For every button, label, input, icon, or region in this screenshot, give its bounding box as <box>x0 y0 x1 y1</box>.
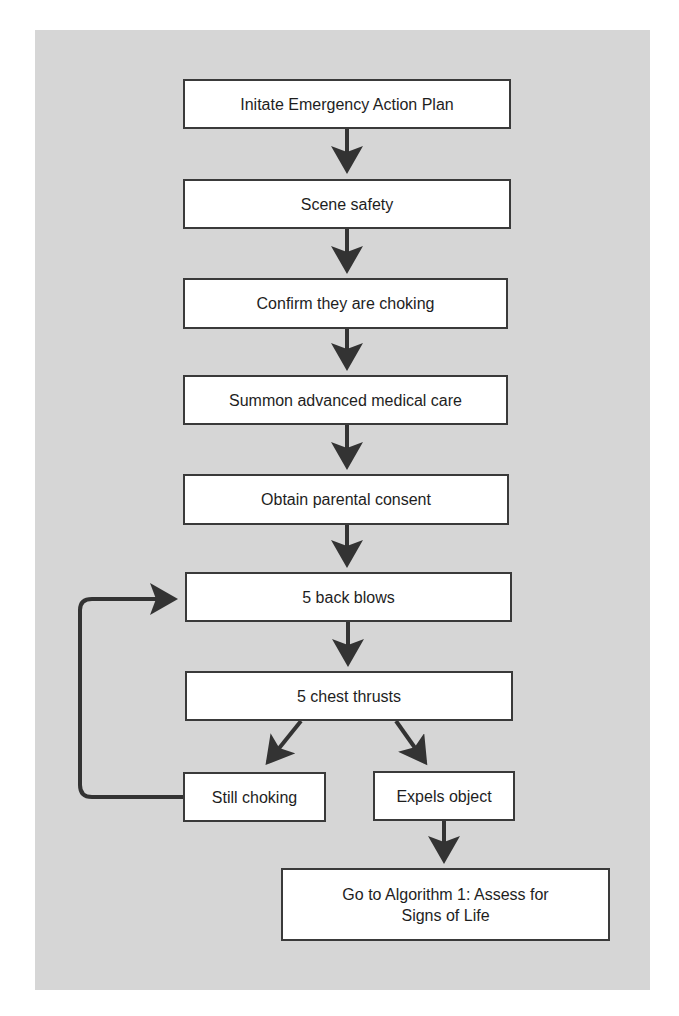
node-confirm-choking: Confirm they are choking <box>183 278 508 329</box>
node-scene-safety: Scene safety <box>183 179 511 229</box>
node-label: Confirm they are choking <box>257 293 435 314</box>
node-label: Obtain parental consent <box>261 489 431 510</box>
node-label: Summon advanced medical care <box>229 390 462 411</box>
arrow-n7-n9 <box>396 721 425 762</box>
node-label: Initate Emergency Action Plan <box>240 94 453 115</box>
node-expels-object: Expels object <box>373 771 515 821</box>
node-summon-care: Summon advanced medical care <box>183 375 508 425</box>
node-label: Still choking <box>212 787 297 808</box>
node-label: Go to Algorithm 1: Assess for Signs of L… <box>323 884 568 926</box>
node-back-blows: 5 back blows <box>185 572 512 622</box>
node-algorithm-1: Go to Algorithm 1: Assess for Signs of L… <box>281 868 610 941</box>
node-initiate-eap: Initate Emergency Action Plan <box>183 79 511 129</box>
arrow-loop-n8-n6 <box>80 599 183 797</box>
node-chest-thrusts: 5 chest thrusts <box>185 671 513 721</box>
node-label: Scene safety <box>301 194 394 215</box>
node-still-choking: Still choking <box>183 772 326 822</box>
arrow-n7-n8 <box>268 721 301 762</box>
node-label: 5 chest thrusts <box>297 686 401 707</box>
node-parental-consent: Obtain parental consent <box>183 474 509 525</box>
node-label: 5 back blows <box>302 587 395 608</box>
node-label: Expels object <box>396 786 491 807</box>
